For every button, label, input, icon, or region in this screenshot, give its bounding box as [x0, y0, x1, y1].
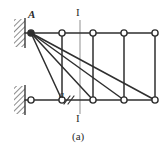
- joint-bottom-1: [28, 97, 34, 103]
- panel-dimension-label-a: a: [59, 90, 64, 100]
- joint-top-4: [121, 30, 127, 36]
- joint-bottom-3: [90, 97, 96, 103]
- joint-bottom-5: [152, 97, 158, 103]
- truss-figure: A a I I (a): [0, 0, 165, 157]
- joint-top-3: [90, 30, 96, 36]
- lower-wall-support: [14, 85, 25, 115]
- truss-members: [25, 33, 155, 100]
- section-label-top: I: [76, 7, 80, 18]
- node-label-A: A: [28, 9, 35, 20]
- section-label-bottom: I: [76, 113, 80, 124]
- joint-top-5: [152, 30, 158, 36]
- figure-caption: (a): [72, 131, 84, 142]
- diagonal-A-to-bottom-1: [31, 33, 62, 100]
- joint-A: [28, 30, 34, 36]
- upper-wall-support: [14, 18, 25, 48]
- joint-top-2: [59, 30, 65, 36]
- diagonal-A-to-bottom-3: [31, 33, 124, 100]
- joint-bottom-4: [121, 97, 127, 103]
